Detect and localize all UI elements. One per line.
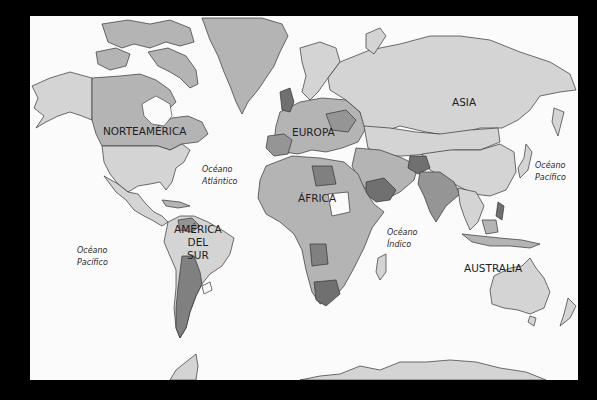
antarctica-peninsula <box>170 354 198 380</box>
label-africa: ÁFRICA <box>298 192 336 205</box>
south-africa <box>314 280 340 306</box>
label-pacific-east-line1: Océano <box>535 160 566 172</box>
label-australia: AUSTRALIA <box>464 262 522 275</box>
borneo <box>482 220 498 234</box>
indonesia <box>462 234 540 248</box>
label-indian-line2: Índico <box>387 239 417 251</box>
world-map: NORTEAMÉRICA EUROPA ASIA ÁFRICA AMÉRICA … <box>30 16 578 380</box>
iberia <box>266 134 292 156</box>
libya <box>312 166 336 186</box>
madagascar <box>376 254 386 280</box>
label-atlantic-line1: Océano <box>202 164 237 176</box>
japan <box>518 144 532 178</box>
label-north-america: NORTEAMÉRICA <box>103 125 186 138</box>
label-south-america: AMÉRICA DEL SUR <box>174 223 222 262</box>
angola-dr <box>310 244 328 266</box>
alaska <box>32 72 92 128</box>
label-indian-line1: Océano <box>387 227 417 239</box>
arctic-archipelago <box>102 20 194 48</box>
label-south-america-line2: DEL <box>174 236 222 249</box>
victoria-island <box>96 48 130 70</box>
label-europe: EUROPA <box>292 126 335 139</box>
greenland <box>202 18 288 114</box>
cuba <box>162 200 190 208</box>
label-pacific-east-line2: Pacífico <box>535 172 566 184</box>
label-asia: ASIA <box>452 96 476 109</box>
new-zealand <box>560 298 576 326</box>
label-south-america-line1: AMÉRICA <box>174 223 222 236</box>
uruguay-paraguay <box>202 282 212 294</box>
label-atlantic-line2: Atlántico <box>202 176 237 188</box>
label-pacific-ocean-east: Océano Pacífico <box>535 160 566 183</box>
label-pacific-west-line2: Pacífico <box>77 257 108 269</box>
label-pacific-west-line1: Océano <box>77 245 108 257</box>
label-south-america-line3: SUR <box>174 249 222 262</box>
philippines <box>496 202 504 220</box>
kamchatka <box>552 108 564 136</box>
label-atlantic-ocean: Océano Atlántico <box>202 164 237 187</box>
russia <box>328 36 576 136</box>
tasmania <box>528 316 536 326</box>
antarctica <box>300 360 546 380</box>
label-pacific-ocean-west: Océano Pacífico <box>77 245 108 268</box>
label-indian-ocean: Océano Índico <box>387 227 417 250</box>
